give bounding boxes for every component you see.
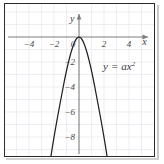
parabola-plot: −4 −2 2 4 0 −2 −4 −6 −8 y x y=ax2: [0, 0, 164, 164]
y-axis-arrow-icon: [77, 14, 82, 20]
y-tick-label--4: −4: [64, 82, 75, 92]
figure-root: −4 −2 2 4 0 −2 −4 −6 −8 y x y=ax2: [0, 0, 164, 164]
x-tick-label-4: 4: [127, 39, 132, 49]
equation-coefficient: ax: [121, 60, 132, 72]
x-tick-label-2: 2: [102, 39, 107, 49]
y-tick-label--2: −2: [64, 57, 75, 67]
axis-arrowheads: [77, 14, 148, 39]
y-tick-label--6: −6: [64, 107, 75, 117]
y-tick-label--8: −8: [64, 132, 75, 142]
x-tick-label--2: −2: [49, 39, 60, 49]
x-axis-label: x: [141, 36, 147, 47]
equation-lhs: y: [102, 60, 108, 72]
equation-exponent: 2: [132, 60, 136, 68]
equation-equals: =: [111, 60, 118, 72]
origin-label: 0: [71, 39, 76, 49]
x-tick-label--4: −4: [24, 39, 35, 49]
y-axis-label: y: [69, 13, 75, 24]
